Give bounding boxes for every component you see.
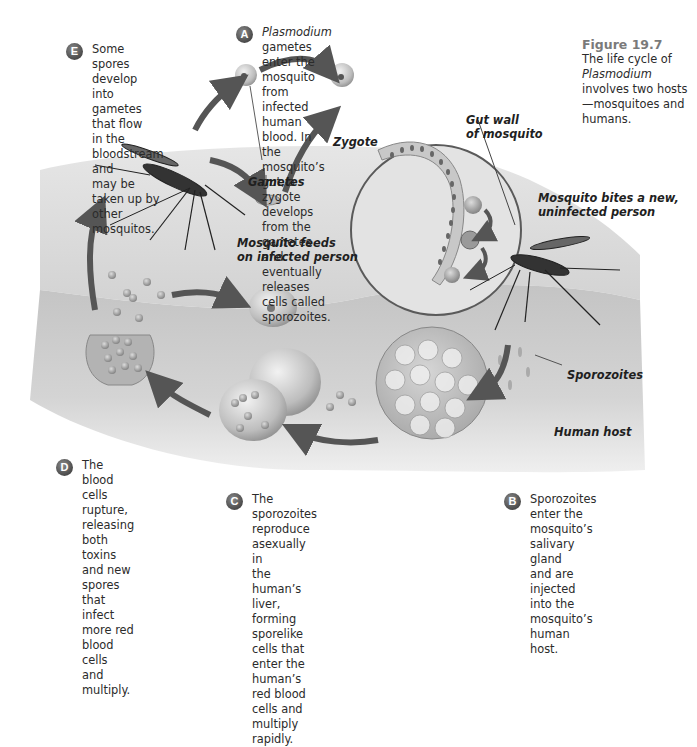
figure-caption: The life cycle of Plasmodium involves tw…: [582, 52, 697, 127]
step-b-text: Sporozoites enter the mosquito’s salivar…: [530, 492, 596, 657]
label-gametes: Gametes: [248, 175, 305, 189]
badge-b: B: [504, 493, 521, 510]
badge-d: D: [56, 459, 73, 476]
label-mosquito-bites: Mosquito bites a new, uninfected person: [538, 191, 679, 219]
figure-number: Figure 19.7: [582, 37, 663, 52]
caption-pre: The life cycle of: [582, 52, 672, 66]
step-a-italic: Plasmodium: [262, 25, 332, 39]
label-human-host: Human host: [554, 425, 631, 439]
badge-c: C: [226, 493, 243, 510]
caption-italic: Plasmodium: [582, 67, 652, 81]
label-gut-wall: Gut wall of mosquito: [466, 113, 543, 141]
label-mosquito-feeds: Mosquito feeds on infected person: [237, 236, 358, 264]
caption-post: involves two hosts—mosquitoes and humans…: [582, 82, 687, 126]
step-c-text: The sporozoites reproduce asexually in t…: [252, 492, 317, 747]
step-e-text: Some spores develop into gametes that fl…: [92, 42, 163, 237]
step-d-text: The blood cells rupture, releasing both …: [82, 458, 134, 698]
badge-a: A: [236, 26, 253, 43]
label-zygote: Zygote: [333, 135, 378, 149]
badge-e: E: [66, 43, 83, 60]
label-sporozoites: Sporozoites: [567, 368, 643, 382]
